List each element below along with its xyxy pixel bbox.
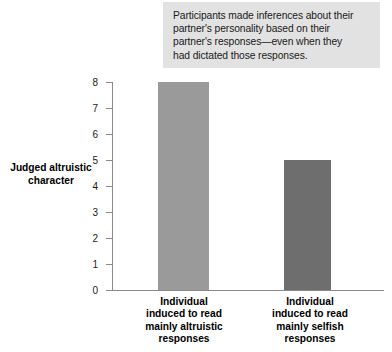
y-axis-title-line-1: Judged altruistic bbox=[8, 162, 94, 175]
y-tick-mark bbox=[106, 82, 113, 83]
x-axis-label-0-line-1: Individual bbox=[126, 296, 242, 308]
x-axis-label-1-line-1: Individual bbox=[252, 296, 368, 308]
y-axis-title: Judged altruistic character bbox=[8, 162, 94, 187]
x-axis-label-0-line-3: mainly altruistic bbox=[126, 321, 242, 333]
y-tick-mark bbox=[106, 264, 113, 265]
y-tick-mark bbox=[106, 186, 113, 187]
x-axis-label-1-line-2: induced to read bbox=[252, 308, 368, 320]
y-tick-label: 7 bbox=[82, 103, 98, 114]
y-tick-label: 0 bbox=[82, 285, 98, 296]
y-tick-label: 6 bbox=[82, 129, 98, 140]
x-axis-label-0: Individual induced to read mainly altrui… bbox=[126, 296, 242, 346]
plot-area: 012345678 Judged altruistic character In… bbox=[0, 0, 392, 352]
y-tick-mark bbox=[106, 134, 113, 135]
y-tick-mark bbox=[106, 212, 113, 213]
bar-1 bbox=[284, 160, 331, 290]
y-tick-mark bbox=[106, 290, 113, 291]
x-axis-label-1-line-3: mainly selfish bbox=[252, 321, 368, 333]
bar-chart-figure: Participants made inferences about their… bbox=[0, 0, 392, 352]
y-tick-label: 3 bbox=[82, 207, 98, 218]
bar-0 bbox=[158, 82, 209, 290]
y-tick-label: 8 bbox=[82, 77, 98, 88]
y-tick-mark bbox=[106, 160, 113, 161]
y-tick-label: 1 bbox=[82, 259, 98, 270]
y-tick-mark bbox=[106, 108, 113, 109]
x-axis-label-0-line-4: responses bbox=[126, 333, 242, 345]
x-axis-label-1: Individual induced to read mainly selfis… bbox=[252, 296, 368, 346]
y-tick-label: 2 bbox=[82, 233, 98, 244]
x-axis-label-0-line-2: induced to read bbox=[126, 308, 242, 320]
y-axis-title-line-2: character bbox=[8, 175, 94, 188]
x-axis-label-1-line-4: responses bbox=[252, 333, 368, 345]
x-axis-line bbox=[112, 290, 384, 291]
y-tick-mark bbox=[106, 238, 113, 239]
